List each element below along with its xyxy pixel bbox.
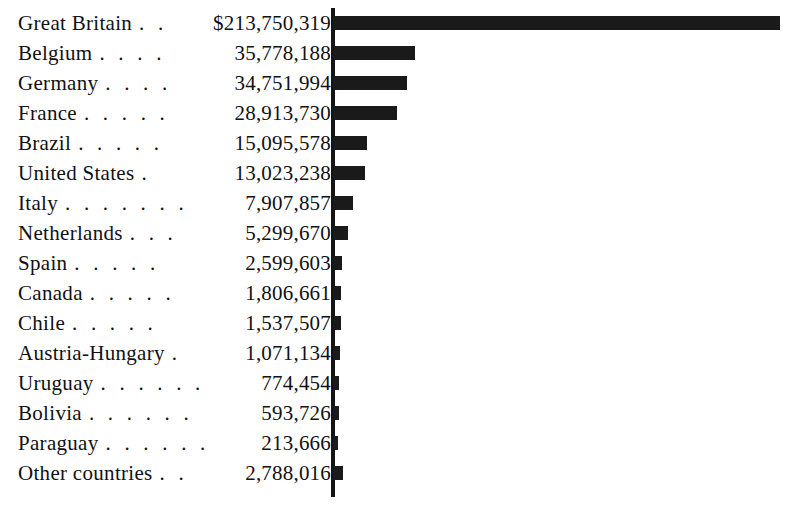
value-label: $213,750,319 [120, 8, 332, 38]
chart-row: United States.13,023,238 [0, 158, 787, 188]
category-label: Belgium [18, 41, 92, 66]
chart-row: Belgium. . . .35,778,188 [0, 38, 787, 68]
chart-row: Austria-Hungary.1,071,134 [0, 338, 787, 368]
bar [333, 286, 341, 300]
chart-row: Chile. . . . .1,537,507 [0, 308, 787, 338]
category-label: France [18, 101, 77, 126]
value-label: 5,299,670 [120, 218, 332, 248]
chart-row: Bolivia. . . . . .593,726 [0, 398, 787, 428]
bar [333, 346, 340, 360]
value-label: 34,751,994 [120, 68, 332, 98]
category-label: Italy [18, 191, 58, 216]
value-label: 2,788,016 [120, 458, 332, 488]
category-label: Uruguay [18, 371, 94, 396]
category-label: Chile [18, 311, 65, 336]
category-label: Great Britain [18, 11, 132, 36]
bar [333, 256, 342, 270]
bar [333, 406, 339, 420]
chart-row: France. . . . .28,913,730 [0, 98, 787, 128]
category-label: Paraguay [18, 431, 99, 456]
chart-row: Other countries. .2,788,016 [0, 458, 787, 488]
value-label: 2,599,603 [120, 248, 332, 278]
category-label: Canada [18, 281, 83, 306]
category-label: Germany [18, 71, 98, 96]
value-label: 28,913,730 [120, 98, 332, 128]
value-label: 1,806,661 [120, 278, 332, 308]
chart-row: Paraguay. . . . . .213,666 [0, 428, 787, 458]
value-label: 15,095,578 [120, 128, 332, 158]
chart-row: Netherlands. . .5,299,670 [0, 218, 787, 248]
bar [333, 226, 348, 240]
bar [333, 196, 353, 210]
value-label: 13,023,238 [120, 158, 332, 188]
bar [333, 76, 407, 90]
value-label: 7,907,857 [120, 188, 332, 218]
value-label: 774,454 [120, 368, 332, 398]
bar [333, 316, 341, 330]
chart-row: Canada. . . . .1,806,661 [0, 278, 787, 308]
bar [333, 436, 338, 450]
value-label: 35,778,188 [120, 38, 332, 68]
category-label: Bolivia [18, 401, 82, 426]
bar [333, 16, 780, 30]
chart-row: Uruguay. . . . . .774,454 [0, 368, 787, 398]
chart-row: Brazil. . . . .15,095,578 [0, 128, 787, 158]
value-label: 213,666 [120, 428, 332, 458]
value-label: 1,071,134 [120, 338, 332, 368]
chart-row: Germany. . . .34,751,994 [0, 68, 787, 98]
category-label: United States [18, 161, 134, 186]
bar [333, 46, 415, 60]
chart-row: Spain. . . . .2,599,603 [0, 248, 787, 278]
bar [333, 466, 343, 480]
chart-row: Italy. . . . . . .7,907,857 [0, 188, 787, 218]
chart-row: Great Britain. .$213,750,319 [0, 8, 787, 38]
bar-chart: Great Britain. .$213,750,319Belgium. . .… [0, 0, 787, 508]
bar [333, 106, 397, 120]
category-label: Netherlands [18, 221, 123, 246]
value-label: 1,537,507 [120, 308, 332, 338]
category-label: Spain [18, 251, 67, 276]
value-label: 593,726 [120, 398, 332, 428]
bar [333, 376, 339, 390]
category-label: Brazil [18, 131, 71, 156]
bar [333, 136, 367, 150]
bar [333, 166, 365, 180]
